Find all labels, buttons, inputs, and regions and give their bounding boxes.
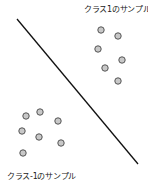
- decision-boundary-line: [17, 19, 138, 164]
- class-minus-1-sample-point: [19, 128, 25, 134]
- class-minus-1-sample-point: [20, 150, 26, 156]
- class-minus-1-sample-point: [23, 113, 29, 119]
- class-1-sample-point: [119, 57, 125, 63]
- class-1-sample-point: [115, 33, 121, 39]
- separation-diagram: [0, 0, 148, 191]
- class-minus-1-label: クラス-1のサンプル: [7, 170, 76, 181]
- class-minus-1-sample-point: [58, 140, 64, 146]
- class-1-sample-point: [102, 65, 108, 71]
- class-1-sample-point: [115, 78, 121, 84]
- class-minus-1-sample-point: [37, 109, 43, 115]
- class-1-sample-point: [95, 46, 101, 52]
- class-1-label: クラス1のサンプル: [84, 3, 148, 14]
- class-minus-1-sample-point: [55, 118, 61, 124]
- class-1-sample-point: [98, 27, 104, 33]
- class-minus-1-sample-point: [36, 134, 42, 140]
